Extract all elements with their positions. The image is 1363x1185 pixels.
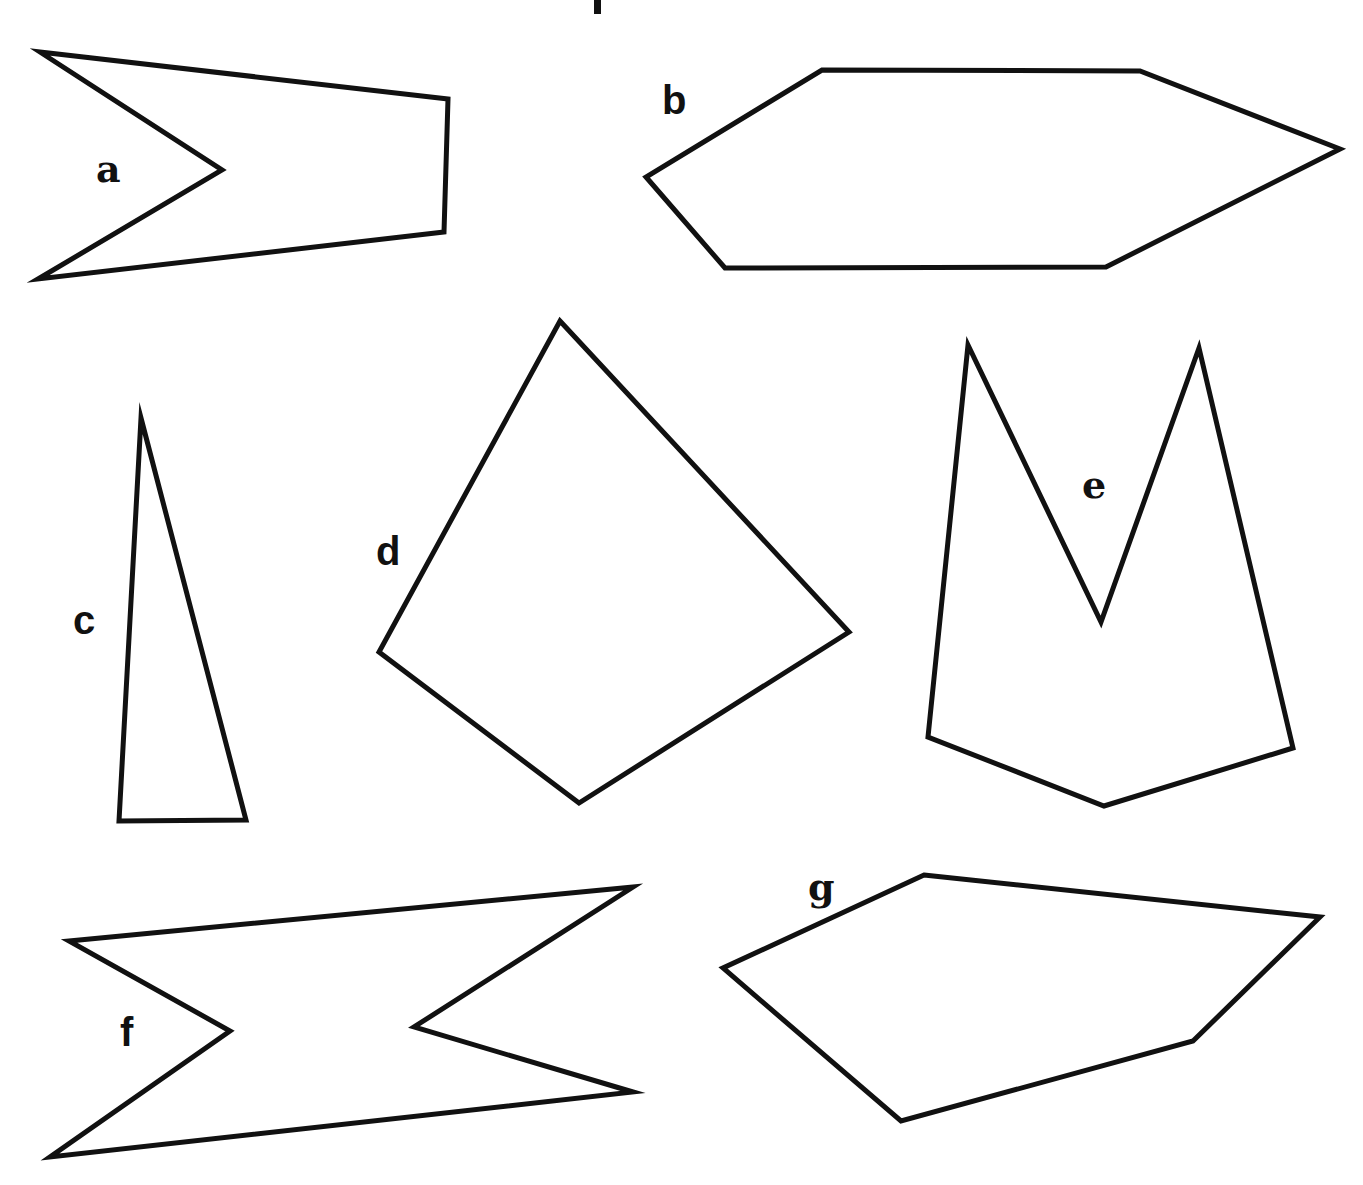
shape-label-g: g xyxy=(808,868,835,906)
shape-label-a: a xyxy=(96,150,121,188)
polygon-b xyxy=(646,70,1340,268)
polygon-canvas xyxy=(0,0,1363,1185)
polygon-d xyxy=(379,321,849,803)
polygon-c xyxy=(119,418,246,821)
shape-label-b: b xyxy=(662,80,686,120)
polygon-f xyxy=(50,887,633,1157)
shape-label-c: c xyxy=(73,600,95,640)
polygon-e xyxy=(928,345,1293,806)
shape-label-f: f xyxy=(120,1012,133,1052)
shape-label-e: e xyxy=(1082,466,1106,504)
shape-label-d: d xyxy=(376,531,400,571)
polygon-g xyxy=(723,875,1320,1121)
